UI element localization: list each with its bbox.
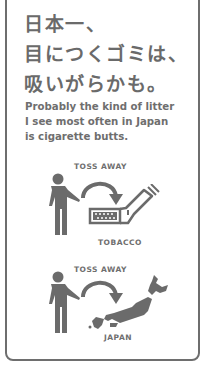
subtitle-line-2: I see most often in Japan [25,114,168,129]
subtitle-line-1: Probably the kind of litter [25,99,174,114]
japan-label: JAPAN [104,333,132,342]
person-icon [42,173,82,237]
japan-map-icon [86,273,172,333]
headline-line-3: 吸いがらかも。 [24,74,168,94]
headline-line-1: 日本一、 [24,14,106,34]
person-icon [42,271,82,335]
tobacco-label: TOBACCO [98,238,142,247]
cigarette-butt-icon [88,184,160,228]
subtitle-line-3: is cigarette butts. [25,129,128,144]
headline-line-2: 目につくゴミは、 [24,44,188,64]
toss-away-label-1: TOSS AWAY [74,162,127,171]
